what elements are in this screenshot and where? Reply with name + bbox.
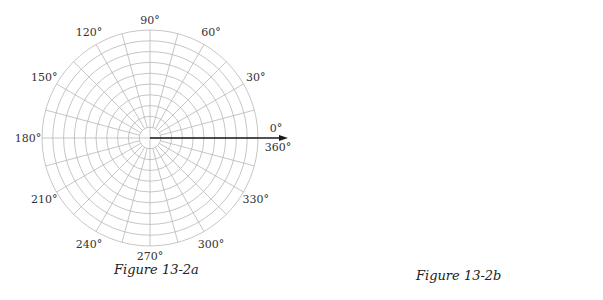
angle-label: 240°: [76, 238, 103, 251]
figure-caption-a: Figure 13-2a: [114, 262, 199, 277]
polar-figure-b: Figure 13-2b: [300, 0, 603, 300]
angle-label: 210°: [31, 193, 58, 206]
angle-label: 180°: [15, 132, 42, 145]
angle-label: 0°: [270, 122, 283, 135]
polar-plot-a: 0°30°60°90°120°150°180°210°240°270°300°3…: [0, 0, 300, 300]
angle-label: 330°: [242, 193, 269, 206]
angle-label: 90°: [140, 14, 160, 27]
figure-caption-b: Figure 13-2b: [416, 268, 501, 283]
polar-plot-b: [300, 0, 603, 300]
angle-label: 30°: [246, 71, 266, 84]
angle-label: 150°: [31, 71, 58, 84]
polar-figure-a: 0°30°60°90°120°150°180°210°240°270°300°3…: [0, 0, 300, 300]
angle-label: 300°: [198, 238, 225, 251]
angle-label: 60°: [201, 26, 221, 39]
angle-label: 360°: [265, 141, 292, 154]
angle-label: 120°: [76, 26, 103, 39]
